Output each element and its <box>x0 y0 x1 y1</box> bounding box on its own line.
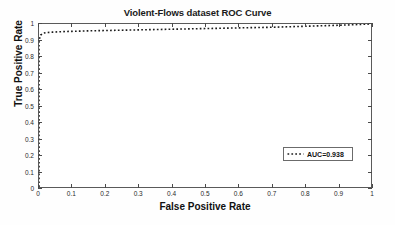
y-axis-tick <box>368 106 372 107</box>
y-axis-tick <box>368 40 372 41</box>
x-axis-tick-label: 0.1 <box>67 190 76 197</box>
x-axis-tick <box>138 184 139 188</box>
x-axis-tick <box>172 184 173 188</box>
x-axis-tick-label: 0.2 <box>100 190 109 197</box>
x-axis-tick-label: 0.3 <box>134 190 143 197</box>
y-axis-tick <box>368 172 372 173</box>
x-axis-tick <box>305 23 306 27</box>
legend-line-sample <box>287 151 304 157</box>
y-axis-tick-label: 0.2 <box>34 152 43 159</box>
x-axis-tick-label: 1 <box>370 190 374 197</box>
x-axis-tick-label: 0.6 <box>234 190 243 197</box>
x-axis-tick-label: 0.7 <box>267 190 276 197</box>
y-axis-tick <box>368 139 372 140</box>
y-axis-tick-label: 0 <box>34 185 38 192</box>
y-axis-tick <box>368 89 372 90</box>
roc-curve-figure: Violent-Flows dataset ROC Curve 00.10.20… <box>0 0 395 225</box>
x-axis-label: False Positive Rate <box>38 201 372 212</box>
x-axis-tick <box>71 184 72 188</box>
y-axis-tick-label: 0.9 <box>34 36 43 43</box>
x-axis-tick-label: 0.4 <box>167 190 176 197</box>
x-axis-tick <box>71 23 72 27</box>
x-axis-tick <box>272 184 273 188</box>
y-axis-label: True Positive Rate <box>13 0 24 144</box>
x-axis-tick <box>238 184 239 188</box>
y-axis-tick <box>368 122 372 123</box>
x-axis-tick <box>372 184 373 188</box>
x-axis-tick <box>339 23 340 27</box>
plot-area <box>38 23 372 188</box>
x-axis-tick <box>138 23 139 27</box>
y-axis-tick-label: 0.3 <box>34 135 43 142</box>
x-axis-tick-label: 0.9 <box>334 190 343 197</box>
y-axis-tick <box>368 188 372 189</box>
roc-curve-line <box>39 24 371 187</box>
y-axis-tick-label: 0.8 <box>34 53 43 60</box>
x-axis-tick <box>305 184 306 188</box>
y-axis-tick <box>38 188 42 189</box>
y-axis-tick-label: 0.4 <box>34 119 43 126</box>
x-axis-tick <box>272 23 273 27</box>
x-axis-tick-label: 0.5 <box>200 190 209 197</box>
y-axis-tick <box>368 56 372 57</box>
legend: AUC=0.938 <box>283 147 353 161</box>
y-axis-tick <box>368 73 372 74</box>
y-axis-tick <box>368 155 372 156</box>
x-axis-tick <box>205 23 206 27</box>
x-axis-tick <box>205 184 206 188</box>
x-axis-tick <box>339 184 340 188</box>
y-axis-tick <box>38 23 42 24</box>
x-axis-tick <box>372 23 373 27</box>
y-axis-tick-label: 0.6 <box>34 86 43 93</box>
y-axis-tick <box>368 23 372 24</box>
y-axis-tick-label: 0.7 <box>34 69 43 76</box>
chart-title: Violent-Flows dataset ROC Curve <box>0 7 395 18</box>
x-axis-tick <box>105 23 106 27</box>
x-axis-tick <box>105 184 106 188</box>
y-axis-tick-label: 0.5 <box>34 102 43 109</box>
x-axis-tick <box>238 23 239 27</box>
legend-label-auc: AUC=0.938 <box>307 151 344 158</box>
y-axis-tick-label: 0.1 <box>34 168 43 175</box>
x-axis-tick <box>172 23 173 27</box>
x-axis-tick-label: 0.8 <box>301 190 310 197</box>
y-axis-tick-label: 1 <box>34 20 38 27</box>
